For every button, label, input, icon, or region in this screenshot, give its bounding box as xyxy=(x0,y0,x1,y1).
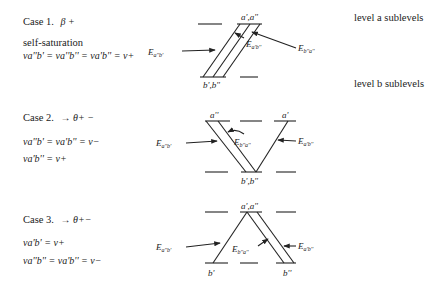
svg-text:Ea''b': Ea''b' xyxy=(147,47,164,58)
energy-level-diagrams: a',a'' b',b'' Ea''b' Ea'b'' Eb''a'' a'' … xyxy=(0,0,444,296)
svg-text:Ea'b'': Ea'b'' xyxy=(297,136,314,147)
svg-text:b',b'': b',b'' xyxy=(203,80,221,90)
svg-text:b': b' xyxy=(208,268,216,278)
svg-text:a',a'': a',a'' xyxy=(241,201,259,211)
svg-text:Eb''a'': Eb''a'' xyxy=(233,137,251,148)
svg-text:a',a'': a',a'' xyxy=(241,12,259,22)
svg-text:Ea''b': Ea''b' xyxy=(155,138,172,149)
svg-text:Ea'b'': Ea'b'' xyxy=(297,241,314,252)
svg-text:Ea'b'': Ea'b'' xyxy=(245,39,262,50)
svg-text:a'': a'' xyxy=(210,110,219,120)
svg-text:b',b'': b',b'' xyxy=(241,176,259,186)
svg-text:Eb''a'': Eb''a'' xyxy=(231,244,249,255)
svg-text:a': a' xyxy=(282,110,290,120)
svg-text:Eb''a'': Eb''a'' xyxy=(297,43,315,54)
svg-text:Ea''b': Ea''b' xyxy=(155,242,172,253)
svg-text:b'': b'' xyxy=(283,268,292,278)
